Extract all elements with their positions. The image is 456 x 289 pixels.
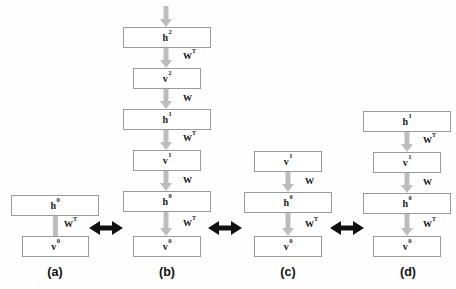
node-label: h1	[402, 116, 411, 127]
node-c-v1: v1	[254, 151, 322, 172]
node-d-v0: v0	[373, 236, 441, 257]
figure-canvas: h0 v0 WT (a) h2 WT v2 W	[0, 0, 456, 289]
caption-a: (a)	[20, 265, 90, 279]
node-b-h2: h2	[123, 27, 211, 48]
node-label: v0	[403, 241, 412, 252]
weight-label-d-0: WT	[423, 135, 436, 145]
node-c-h0: h0	[244, 192, 332, 213]
node-label: v1	[403, 157, 412, 168]
node-a-v0: v0	[22, 236, 89, 257]
weight-label-b-1: W	[183, 93, 192, 103]
node-label: h2	[162, 32, 171, 43]
equivalence-arrow-b-c	[208, 219, 242, 237]
node-label: h1	[162, 114, 171, 125]
node-b-h1: h1	[123, 109, 211, 130]
node-b-v0: v0	[133, 236, 201, 257]
node-label: h0	[283, 197, 292, 208]
weight-label-b-3: W	[183, 175, 192, 185]
node-label: h0	[402, 198, 411, 209]
node-label: v0	[163, 241, 172, 252]
caption-b: (b)	[132, 265, 202, 279]
node-a-h0: h0	[11, 195, 99, 216]
node-d-h1: h1	[363, 111, 451, 132]
weight-label-b-4: WT	[183, 218, 196, 228]
node-d-v1: v1	[373, 152, 441, 173]
connector-arrow-b-0	[154, 48, 178, 68]
connector-arrow-d-2	[395, 214, 419, 236]
node-label: v0	[51, 241, 60, 252]
input-arrow-b	[154, 6, 178, 27]
node-label: v1	[163, 155, 172, 166]
connector-arrow-b-2	[154, 130, 178, 150]
connector-arrow-b-1	[154, 89, 178, 109]
equivalence-arrow-a-b	[89, 219, 123, 237]
caption-c: (c)	[253, 265, 323, 279]
weight-label-c-0: W	[305, 176, 314, 186]
node-b-v2: v2	[133, 68, 201, 89]
connector-arrow-d-1	[395, 173, 419, 193]
weight-label-b-2: WT	[183, 133, 196, 143]
equivalence-arrow-c-d	[330, 219, 364, 237]
connector-bar-a-0	[53, 215, 58, 237]
connector-arrow-b-4	[154, 212, 178, 236]
connector-arrow-c-0	[276, 172, 300, 192]
node-label: h0	[50, 200, 59, 211]
node-label: h0	[162, 196, 171, 207]
connector-arrow-b-3	[154, 171, 178, 191]
node-label: v2	[163, 73, 172, 84]
weight-label-d-1: W	[423, 177, 432, 187]
weight-label-c-1: WT	[305, 219, 318, 229]
node-label: v1	[284, 156, 293, 167]
weight-label-a-0: WT	[64, 219, 77, 229]
node-label: v0	[284, 241, 293, 252]
weight-label-d-2: WT	[423, 219, 436, 229]
node-b-v1: v1	[133, 150, 201, 171]
connector-arrow-d-0	[395, 132, 419, 152]
node-b-h0: h0	[123, 191, 211, 212]
node-c-v0: v0	[254, 236, 322, 257]
node-d-h0: h0	[363, 193, 451, 214]
weight-label-b-0: WT	[183, 51, 196, 61]
caption-d: (d)	[373, 265, 443, 279]
connector-arrow-c-1	[276, 213, 300, 236]
